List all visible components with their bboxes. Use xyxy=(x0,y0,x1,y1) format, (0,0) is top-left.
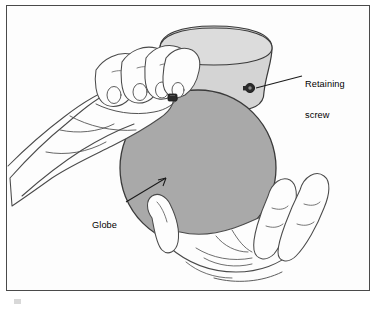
illustration-figure: Retaining screw Globe xyxy=(0,0,384,312)
label-globe-line1: Globe xyxy=(92,220,117,230)
label-globe: Globe xyxy=(92,199,117,251)
label-retaining-screw-line2: screw xyxy=(305,110,345,120)
retaining-screw-left xyxy=(168,94,177,101)
corner-print-mark xyxy=(14,299,21,304)
label-retaining-screw: Retaining screw xyxy=(305,58,345,141)
label-retaining-screw-line1: Retaining xyxy=(305,79,345,89)
illustration-canvas xyxy=(0,0,384,312)
